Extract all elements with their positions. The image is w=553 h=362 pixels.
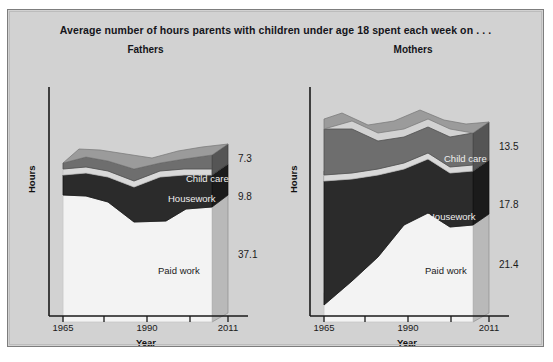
value-label-child-care-fathers: 7.3	[238, 153, 252, 164]
x-axis-label-mothers: Year	[362, 337, 452, 348]
series-label-paid-work-fathers: Paid work	[158, 265, 200, 276]
value-label-paid-work-mothers: 21.4	[499, 259, 518, 270]
value-label-paid-work-fathers: 37.1	[238, 249, 257, 260]
x-tick-2011-fathers: 2011	[208, 322, 248, 333]
x-tick-1965-fathers: 1965	[43, 322, 83, 333]
x-tick-2011-mothers: 2011	[469, 322, 509, 333]
series-label-child-care-fathers: Child care	[186, 173, 229, 184]
chart-panel-mothers: Hours	[280, 65, 542, 340]
value-label-housework-fathers: 9.8	[238, 191, 252, 202]
figure-frame: Average number of hours parents with chi…	[7, 9, 544, 347]
value-label-housework-mothers: 17.8	[499, 199, 518, 210]
series-label-paid-work-mothers: Paid work	[425, 265, 467, 276]
chart-panel-fathers: Hours	[16, 65, 281, 340]
x-tick-1965-mothers: 1965	[304, 322, 344, 333]
panel-title-mothers: Mothers	[298, 44, 528, 55]
y-axis-label-fathers: Hours	[26, 166, 37, 193]
x-tick-1990-mothers: 1990	[388, 322, 428, 333]
panel-title-fathers: Fathers	[28, 44, 263, 55]
chart-svg-fathers	[16, 65, 281, 340]
series-label-housework-fathers: Housework	[168, 193, 216, 204]
series-label-housework-mothers: Housework	[428, 211, 476, 222]
figure-title: Average number of hours parents with chi…	[8, 24, 543, 36]
series-label-child-care-mothers: Child care	[444, 153, 487, 164]
x-tick-1990-fathers: 1990	[127, 322, 167, 333]
x-axis-label-fathers: Year	[101, 337, 191, 348]
y-axis-label-mothers: Hours	[288, 166, 299, 193]
value-label-child-care-mothers: 13.5	[499, 141, 518, 152]
